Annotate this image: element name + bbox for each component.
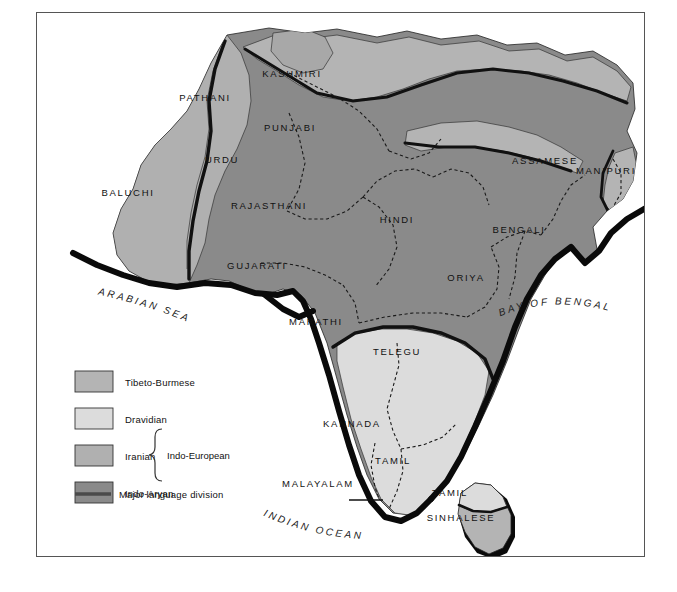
legend-label-tibeto-burmese: Tibeto-Burmese — [125, 377, 195, 388]
region-label-tamil-15: TAMIL — [375, 455, 411, 466]
region-label-manipuri-9: MANIPURI — [576, 165, 636, 176]
region-label-oriya-11: ORIYA — [447, 272, 484, 283]
legend-group-label: Indo-European — [167, 450, 230, 461]
region-label-baluchi-4: BALUCHI — [101, 187, 154, 198]
region-label-urdu-3: URDU — [205, 154, 239, 165]
region-label-telegu-13: TELEGU — [373, 346, 421, 357]
map-frame: PATHANIKASHMIRIPUNJABIURDUBALUCHIRAJASTH… — [36, 12, 645, 557]
region-label-bengali-10: BENGALI — [492, 224, 545, 235]
indo-european-brace: Indo-European — [149, 429, 230, 481]
legend: Tibeto-BurmeseDravidianIranianIndo-Aryan… — [75, 371, 230, 503]
region-label-malayalam-16: MALAYALAM — [282, 478, 354, 489]
region-label-rajasthani-5: RAJASTHANI — [231, 200, 307, 211]
region-label-marathi-12: MARATHI — [289, 316, 343, 327]
region-label-gujarati-7: GUJARATI — [227, 260, 287, 271]
legend-swatch-iranian — [75, 445, 113, 466]
region-label-kannada-14: KANNADA — [323, 418, 381, 429]
legend-swatch-dravidian — [75, 408, 113, 429]
region-label-kashmiri-1: KASHMIRI — [262, 68, 322, 79]
region-label-pathani-0: PATHANI — [179, 92, 231, 103]
legend-division-label: Major language division — [119, 489, 223, 500]
region-label-hindi-6: HINDI — [380, 214, 414, 225]
legend-items: Tibeto-BurmeseDravidianIranianIndo-Aryan — [75, 371, 195, 503]
region-label-tamil-17: TAMIL — [432, 487, 468, 498]
region-label-sinhalese-18: SINHALESE — [427, 512, 496, 523]
legend-swatch-tibeto-burmese — [75, 371, 113, 392]
region-label-assamese-8: ASSAMESE — [512, 155, 578, 166]
region-label-punjabi-2: PUNJABI — [264, 122, 316, 133]
language-map: PATHANIKASHMIRIPUNJABIURDUBALUCHIRAJASTH… — [37, 13, 644, 556]
water-label-arabian-sea: ARABIAN SEA — [96, 286, 192, 325]
water-label-indian-ocean: INDIAN OCEAN — [262, 507, 364, 541]
legend-label-dravidian: Dravidian — [125, 414, 167, 425]
